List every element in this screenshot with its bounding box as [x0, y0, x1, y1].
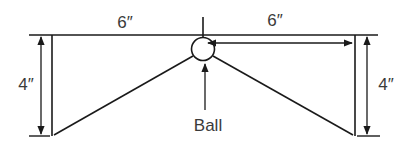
- top-left-width-label: 6″: [117, 13, 132, 32]
- top-right-width-label: 6″: [267, 11, 282, 30]
- right-diagonal-line: [213, 56, 353, 135]
- right-height-label: 4″: [378, 75, 393, 94]
- left-diagonal-line: [54, 56, 193, 135]
- left-height-label: 4″: [18, 75, 33, 94]
- ball-circle: [192, 38, 215, 61]
- ball-geometry-diagram: 6″ 6″ 4″ 4″ Ball: [0, 0, 410, 148]
- ball-label: Ball: [194, 116, 222, 135]
